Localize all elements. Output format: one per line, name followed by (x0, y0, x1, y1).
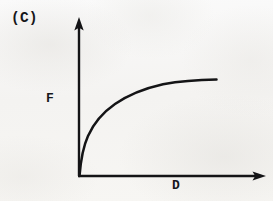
y-axis-label: F (46, 92, 54, 105)
plot-graphic (0, 0, 273, 201)
panel-label: (C) (11, 11, 38, 26)
x-axis-label: D (172, 179, 180, 192)
data-curve (80, 80, 217, 176)
figure-panel: (C) F D (0, 0, 273, 201)
